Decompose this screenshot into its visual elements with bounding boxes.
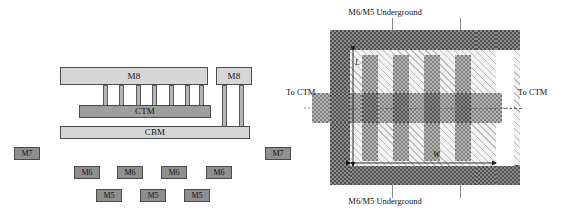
m8-side-plate: M8: [216, 67, 252, 85]
label-to-ctm-left: To CTM: [286, 88, 315, 97]
cbm-bar: CBM: [60, 126, 250, 139]
metal-tag-label: M5: [191, 192, 202, 200]
via-m8-ctm-1: [103, 85, 108, 107]
metal-tag-label: M5: [103, 192, 114, 200]
metal-tag-label: M6: [213, 169, 224, 177]
figure-root: M8 M8 CTM CBM M7 M7 M6 M6 M6 M6 M5: [0, 0, 580, 221]
label-to-ctm-right: To CTM: [518, 88, 547, 97]
via-m8-ctm-4: [152, 85, 157, 107]
cbm-bar-label: CBM: [145, 128, 166, 137]
metal-tag-m5-3: M5: [184, 189, 210, 202]
layout-panel: M6/M5 Underground M6/M5 Underground To C…: [290, 0, 580, 221]
metal-tag-m7-left: M7: [14, 147, 40, 160]
via-m8-cbm-2: [239, 85, 244, 128]
symmetry-dash-line: [350, 108, 522, 109]
metal-tag-m6-1: M6: [74, 166, 100, 179]
metal-tag-label: M6: [168, 169, 179, 177]
cross-section-panel: M8 M8 CTM CBM M7 M7 M6 M6 M6 M6 M5: [0, 0, 290, 221]
ctm-bar: CTM: [79, 105, 211, 118]
leader-top-right: [460, 18, 461, 31]
metal-tag-label: M7: [21, 150, 32, 158]
metal-tag-m7-right: M7: [265, 147, 291, 160]
label-m6m5-underground-top: M6/M5 Underground: [348, 8, 421, 17]
metal-tag-m6-2: M6: [117, 166, 143, 179]
leader-bottom-right: [460, 185, 461, 198]
via-m8-ctm-3: [136, 85, 141, 107]
via-m8-cbm-1: [222, 85, 227, 128]
metal-tag-label: M6: [124, 169, 135, 177]
metal-tag-m6-3: M6: [161, 166, 187, 179]
label-m6m5-underground-bottom: M6/M5 Underground: [348, 197, 421, 206]
via-m8-ctm-5: [169, 85, 174, 107]
via-m8-ctm-7: [199, 85, 204, 107]
spine-ring-overlap-left: [330, 93, 350, 123]
ctm-bar-label: CTM: [135, 107, 155, 116]
m8-top-plate-label: M8: [128, 72, 141, 81]
label-dimension-width: W: [433, 150, 440, 159]
metal-tag-label: M6: [81, 169, 92, 177]
metal-tag-m5-1: M5: [96, 189, 122, 202]
label-dimension-length: L: [355, 58, 360, 67]
m8-top-plate: M8: [60, 67, 208, 85]
via-m8-ctm-2: [119, 85, 124, 107]
metal-tag-label: M7: [272, 150, 283, 158]
metal-tag-m5-2: M5: [140, 189, 166, 202]
leader-top-left: [392, 18, 393, 31]
via-m8-ctm-6: [185, 85, 190, 107]
metal-tag-m6-4: M6: [206, 166, 232, 179]
m8-side-plate-label: M8: [228, 72, 241, 81]
metal-tag-label: M5: [147, 192, 158, 200]
